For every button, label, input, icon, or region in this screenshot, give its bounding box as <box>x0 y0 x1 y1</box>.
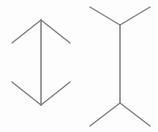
left-figure-bottom-right-fin <box>41 82 70 105</box>
left-figure-top-right-fin <box>41 20 70 43</box>
left-figure-top-left-fin <box>12 20 41 43</box>
right-figure-arrowhead-outward <box>90 7 150 126</box>
right-figure-bottom-left-fin <box>90 103 120 126</box>
left-figure-bottom-left-fin <box>12 82 41 105</box>
left-figure-arrowhead-inward <box>12 20 70 105</box>
right-figure-top-left-fin <box>90 7 120 25</box>
right-figure-top-right-fin <box>120 7 150 25</box>
figure-canvas <box>0 0 158 132</box>
muller-lyer-illusion-svg <box>0 0 158 132</box>
right-figure-bottom-right-fin <box>120 103 150 126</box>
